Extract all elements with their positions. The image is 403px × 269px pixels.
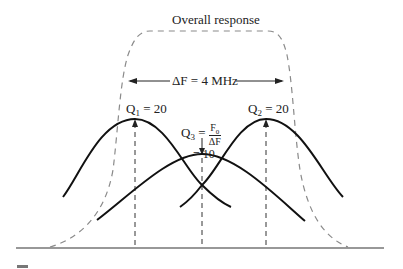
stagger-tuned-response-diagram: Overall response ΔF = 4 MHz Q1 = 20 Q2 =… [0,0,403,269]
q2-peak-arrow-icon [263,119,269,127]
bandwidth-label: ΔF = 4 MHz [172,73,238,89]
q2-label: Q2 = 20 [248,101,289,117]
q1-peak-arrow-icon [132,119,138,127]
q1-label: Q1 = 20 [126,101,167,117]
q2-value: = 20 [265,101,289,116]
q3-value: = 10 [193,147,215,162]
q3-fraction: F0 ΔF [209,122,221,147]
overall-response-title: Overall response [172,12,260,28]
q3-fraction-denominator: ΔF [209,136,221,147]
q2-symbol: Q [248,101,257,116]
corner-mark [17,265,28,268]
q1-symbol: Q [126,101,135,116]
q3-label: Q3 = F0 ΔF [181,122,221,147]
q1-subscript: 1 [135,108,140,118]
q1-value: = 20 [143,101,167,116]
bandwidth-arrowhead-left-icon [128,78,137,84]
q2-subscript: 2 [257,108,262,118]
q3-equals: = [198,125,205,140]
q3-symbol: Q [181,125,190,140]
q3-fraction-numerator: F0 [209,122,221,136]
q3-subscript: 3 [190,132,195,142]
bandwidth-arrowhead-right-icon [275,78,284,84]
